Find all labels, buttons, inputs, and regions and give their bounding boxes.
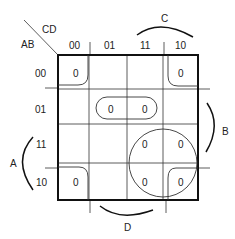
column-header-00: 00 (69, 40, 81, 51)
brace-a (23, 137, 34, 190)
cell-10-11: 0 (142, 177, 148, 188)
cell-10-00: 0 (73, 177, 79, 188)
cell-00-00: 0 (73, 68, 79, 79)
cell-01-01: 0 (108, 104, 114, 115)
cell-10-10: 0 (178, 177, 184, 188)
row-variable-label: AB (21, 39, 35, 50)
column-header-01: 01 (104, 40, 116, 51)
cell-01-11: 0 (142, 104, 148, 115)
row-header-11: 11 (36, 139, 47, 150)
row-header-10: 10 (36, 177, 48, 188)
row-header-00: 00 (35, 68, 47, 79)
brace-label-c: C (161, 13, 168, 24)
cell-11-10: 0 (178, 139, 184, 150)
brace-b (206, 103, 214, 152)
map-border (58, 55, 198, 200)
row-header-01: 01 (35, 104, 47, 115)
column-header-11: 11 (140, 40, 151, 51)
cell-00-10: 0 (178, 68, 184, 79)
cell-11-11: 0 (142, 139, 148, 150)
karnaugh-map: CD AB 00 01 11 10 00 01 11 10 0 0 0 0 0 … (0, 0, 235, 239)
brace-label-b: B (222, 126, 229, 137)
brace-d (100, 206, 153, 215)
brace-label-d: D (124, 222, 131, 233)
brace-c (137, 27, 193, 37)
column-variable-label: CD (42, 24, 56, 35)
group-row01-pill (96, 97, 157, 119)
column-header-10: 10 (175, 40, 187, 51)
brace-label-a: A (10, 158, 17, 169)
